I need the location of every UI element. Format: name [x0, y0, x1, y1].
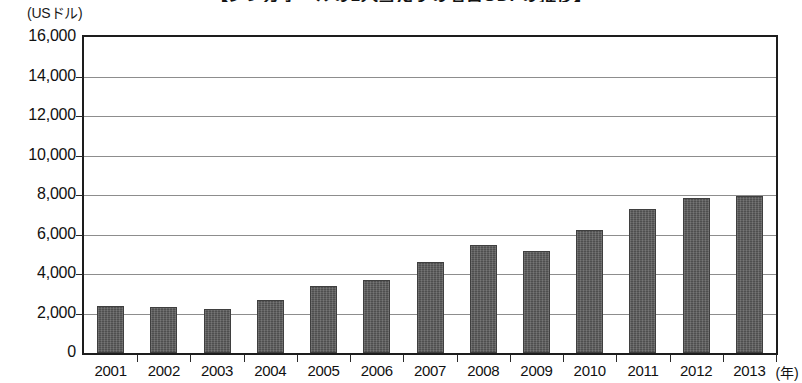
x-axis-tick-mark [297, 355, 298, 362]
y-axis-tick-label: 14,000 [0, 67, 76, 85]
y-axis-unit-label: (USドル) [27, 2, 83, 22]
x-axis-tick-mark [776, 355, 777, 362]
y-axis-tick-label: 4,000 [0, 264, 76, 282]
x-axis-tick-mark [510, 355, 511, 362]
gridline [84, 195, 776, 196]
gridline [84, 77, 776, 78]
gridline [84, 116, 776, 117]
y-axis-tick-mark [76, 195, 83, 196]
x-axis-tick-mark [723, 355, 724, 362]
y-axis-tick-mark [76, 314, 83, 315]
x-axis-unit-label: (年) [775, 362, 798, 382]
plot-area [82, 35, 778, 355]
chart-figure: 【シンガポールの1人当たりの名目GDPの推移】 (USドル) 16,00014,… [0, 0, 802, 383]
x-axis-tick-label: 2013 [717, 362, 781, 379]
y-axis-tick-label: 10,000 [0, 146, 76, 164]
x-axis-tick-mark [244, 355, 245, 362]
y-axis-tick-mark [76, 77, 83, 78]
y-axis-tick-label: 0 [0, 343, 76, 361]
gridline [84, 156, 776, 157]
y-axis-tick-mark [76, 156, 83, 157]
x-axis-tick-mark [190, 355, 191, 362]
y-axis-tick-mark [76, 274, 83, 275]
x-axis-tick-mark [137, 355, 138, 362]
gridline [84, 235, 776, 236]
x-axis-tick-mark [563, 355, 564, 362]
chart-title: 【シンガポールの1人当たりの名目GDPの推移】 [0, 0, 802, 2]
gridline [84, 314, 776, 315]
y-axis-tick-label: 8,000 [0, 185, 76, 203]
gridline [84, 274, 776, 275]
y-axis-tick-label: 12,000 [0, 106, 76, 124]
x-axis-tick-mark [616, 355, 617, 362]
y-axis-tick-mark [76, 116, 83, 117]
x-axis-tick-mark [403, 355, 404, 362]
x-axis-tick-mark [350, 355, 351, 362]
y-axis-tick-label: 2,000 [0, 304, 76, 322]
x-axis-tick-mark [457, 355, 458, 362]
y-axis-tick-label: 16,000 [0, 27, 76, 45]
y-axis-tick-label: 6,000 [0, 225, 76, 243]
y-axis-tick-mark [76, 235, 83, 236]
x-axis-tick-mark [670, 355, 671, 362]
